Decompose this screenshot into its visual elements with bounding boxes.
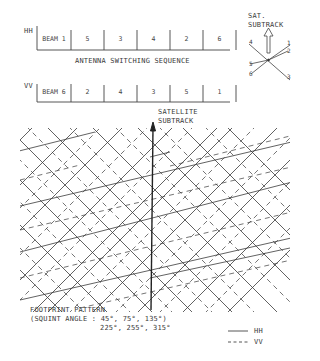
hh-label: HH [24, 27, 33, 35]
legend-vv-label: VV [254, 338, 263, 346]
vv-cell-0: BEAM 6 [37, 83, 71, 102]
caption-line-3: 225°, 255°, 315° [100, 324, 171, 332]
vv-cell-3: 3 [137, 83, 170, 102]
vv-cell-2: 4 [104, 83, 137, 102]
beam-rosette [249, 28, 290, 80]
vv-cell-5: 1 [203, 83, 236, 102]
caption-line-1: FOOTPRINT PATTERN [30, 306, 105, 314]
rosette-title-2: SUBTRACK [248, 21, 283, 29]
rosette-beam-4: 4 [249, 38, 253, 45]
hh-cell-3: 4 [137, 30, 170, 49]
sequence-title: ANTENNA SWITCHING SEQUENCE [75, 57, 190, 65]
hh-cell-2: 3 [104, 30, 137, 49]
rosette-beam-3: 3 [287, 73, 291, 80]
rosette-beam-6: 6 [249, 70, 253, 77]
hh-cell-1: 5 [71, 30, 104, 49]
hh-sequence: BEAM 1 5 3 4 2 6 [37, 30, 237, 49]
legend-lines [228, 331, 248, 342]
hh-cell-5: 6 [203, 30, 236, 49]
rosette-title-1: SAT. [248, 12, 266, 20]
vv-label: VV [24, 82, 33, 90]
vv-cell-4: 5 [170, 83, 203, 102]
rosette-beam-5: 5 [249, 60, 253, 67]
vv-sequence: BEAM 6 2 4 3 5 1 [37, 83, 237, 102]
rosette-beam-2: 2 [287, 47, 291, 54]
subtrack-label-1: SATELLITE [158, 108, 198, 116]
legend-hh-label: HH [254, 327, 263, 335]
hh-cell-4: 2 [170, 30, 203, 49]
vv-cell-1: 2 [71, 83, 104, 102]
caption-line-2: (SQUINT ANGLE : 45°, 75°, 135°) [30, 315, 167, 323]
subtrack-arrow [151, 122, 156, 310]
subtrack-label-2: SUBTRACK [158, 117, 193, 125]
rosette-beam-1: 1 [287, 39, 291, 46]
hh-cell-0: BEAM 1 [37, 30, 71, 49]
